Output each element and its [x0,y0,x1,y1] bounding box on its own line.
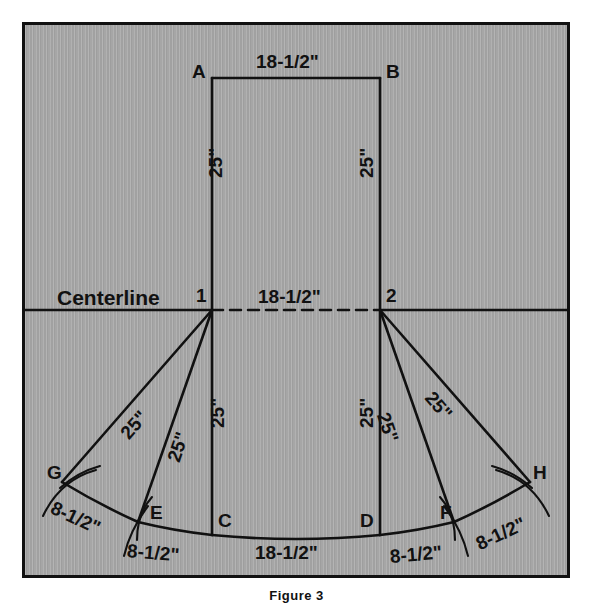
point-label-E: E [150,503,163,522]
dim-chord-EC: 8-1/2" [126,541,180,564]
dim-bottom-CD: 18-1/2" [255,543,318,562]
figure-caption: Figure 3 [0,588,593,603]
point-label-H: H [533,463,547,482]
figure-page: A B 1 2 C D E F G H Centerline 18-1/2" 1… [0,0,593,613]
point-label-D: D [360,511,374,530]
point-label-B: B [386,62,400,81]
dim-mid-12: 18-1/2" [258,287,321,306]
point-label-1: 1 [196,286,207,305]
point-label-A: A [192,62,206,81]
dim-chord-DF: 8-1/2" [389,542,443,565]
dim-right-B2: 25" [357,148,376,178]
dim-right-2D: 25" [357,398,376,428]
centerline-label: Centerline [57,287,160,308]
point-label-C: C [218,511,232,530]
point-label-F: F [440,503,452,522]
point-label-G: G [47,463,62,482]
dim-left-A1: 25" [206,148,225,178]
point-label-2: 2 [386,286,397,305]
dim-left-1C: 25" [208,398,227,428]
dim-top-AB: 18-1/2" [256,52,319,71]
